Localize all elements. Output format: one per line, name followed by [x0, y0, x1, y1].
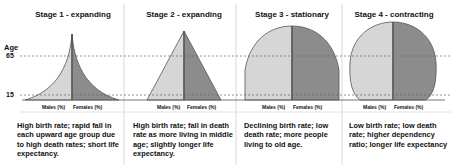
males-area — [25, 34, 72, 100]
females-area — [184, 31, 221, 100]
males-area — [147, 31, 184, 100]
stage-2-males-label: Males (%) — [157, 104, 180, 110]
stage-1-description: High birth rate; rapid fall in each upwa… — [17, 121, 119, 158]
females-area — [72, 34, 119, 100]
females-area — [292, 26, 339, 100]
females-area — [393, 22, 436, 100]
stage-2-description: High birth rate; fall in death rate as m… — [133, 121, 233, 158]
stage-2-title: Stage 2 - expanding — [138, 10, 230, 19]
stage-4-females-label: Females (%) — [394, 104, 423, 110]
males-area — [350, 22, 393, 100]
stage-1-pyramid — [25, 34, 119, 100]
stage-2-pyramid — [147, 31, 221, 100]
stage-4-description: Low birth rate; low death rate; higher d… — [349, 121, 451, 149]
stage-1-title: Stage 1 - expanding — [28, 10, 118, 19]
stage-4-title: Stage 4 - contracting — [346, 10, 442, 19]
stage-4-males-label: Males (%) — [363, 104, 386, 110]
stage-1-females-label: Females (%) — [73, 104, 102, 110]
stage-4-pyramid — [350, 22, 436, 100]
age-tick-65: 65 — [6, 52, 14, 59]
stage-3-description: Declining birth rate; low death rate; mo… — [244, 121, 338, 149]
stage-3-males-label: Males (%) — [262, 104, 285, 110]
stage-3-pyramid — [245, 26, 339, 100]
stage-1-males-label: Males (%) — [42, 104, 65, 110]
males-area — [245, 26, 292, 100]
stage-3-title: Stage 3 - stationary — [246, 10, 338, 19]
age-axis-label: Age — [4, 43, 18, 52]
age-tick-15: 15 — [6, 91, 14, 98]
stage-2-females-label: Females (%) — [187, 104, 216, 110]
stage-3-females-label: Females (%) — [293, 104, 322, 110]
